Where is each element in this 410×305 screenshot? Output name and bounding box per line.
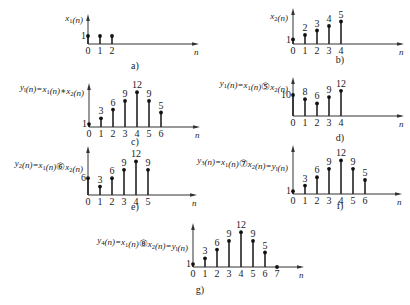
- stem-plot-e: n0613263941259y2(n)=x1(n)⑥x2(n)e): [14, 146, 197, 213]
- y-axis-arrow-icon: [87, 83, 91, 90]
- stem-dot: [111, 108, 115, 112]
- stem-dot: [251, 239, 255, 243]
- stem-dot: [87, 122, 91, 126]
- value-label: 9: [227, 228, 232, 239]
- tick-label: 7: [275, 268, 280, 279]
- stem-plot-g: n0113263941259657y4(n)=x1(n)⑧x2(n)=yl(n)…: [96, 219, 304, 296]
- value-label: 5: [159, 100, 164, 111]
- value-label: 1: [286, 185, 291, 196]
- stem-dot: [135, 90, 139, 94]
- y-axis-arrow-icon: [291, 77, 295, 84]
- tick-label: 1: [303, 195, 308, 206]
- y-axis-label: x2(n): [269, 11, 288, 23]
- tick-label: 5: [146, 196, 151, 207]
- tick-label: 1: [303, 45, 308, 56]
- y-axis-arrow-icon: [86, 14, 90, 21]
- x-axis-label: n: [192, 198, 197, 208]
- x-axis-label: n: [194, 47, 199, 57]
- value-label: 6: [215, 237, 220, 248]
- tick-label: 1: [98, 45, 103, 56]
- stem-dot: [99, 116, 103, 120]
- tick-label: 6: [363, 195, 368, 206]
- x-axis-arrow-icon: [297, 265, 304, 269]
- tick-label: 5: [147, 128, 152, 139]
- stem-dot: [134, 160, 138, 164]
- tick-label: 2: [110, 45, 115, 56]
- stem-dot: [339, 89, 343, 93]
- tick-label: 5: [351, 195, 356, 206]
- stem-dot: [327, 167, 331, 171]
- x-axis-arrow-icon: [193, 125, 200, 129]
- tick-label: 0: [86, 45, 91, 56]
- tick-label: 0: [87, 128, 92, 139]
- value-label: 5: [263, 240, 268, 251]
- tick-label: 3: [327, 45, 332, 56]
- value-label: 9: [146, 157, 151, 168]
- stem-dot: [327, 24, 331, 28]
- x-axis-arrow-icon: [395, 192, 402, 196]
- tick-label: 1: [303, 117, 308, 128]
- tick-label: 3: [327, 195, 332, 206]
- stem-dot: [147, 99, 151, 103]
- y-axis-arrow-icon: [291, 8, 295, 15]
- value-label: 2: [303, 22, 308, 33]
- stem-dot: [291, 93, 295, 97]
- stem-dot: [339, 159, 343, 163]
- value-label: 6: [111, 97, 116, 108]
- value-label: 3: [98, 174, 103, 185]
- stem-dot: [159, 111, 163, 115]
- value-label: 9: [327, 156, 332, 167]
- stem-dot: [327, 95, 331, 99]
- stem-dot: [110, 176, 114, 180]
- value-label: 9: [122, 157, 127, 168]
- tick-label: 5: [251, 268, 256, 279]
- stem-dot: [203, 256, 207, 260]
- panel-caption: c): [131, 136, 139, 148]
- x-axis-arrow-icon: [192, 42, 199, 46]
- y-axis-label: x1(n): [64, 13, 83, 25]
- panel-caption: e): [131, 201, 139, 213]
- x-axis-label: n: [195, 130, 200, 140]
- value-label: 1: [186, 258, 191, 269]
- tick-label: 2: [315, 45, 320, 56]
- value-label: 12: [336, 147, 346, 158]
- stem-dot: [191, 262, 195, 266]
- stem-plot-d: n010182639412y1(n)=x1(n)⑤x2(n)d): [219, 77, 404, 144]
- y-axis-arrow-icon: [86, 146, 90, 153]
- value-label: 12: [131, 148, 141, 159]
- x-axis-arrow-icon: [190, 193, 197, 197]
- value-label: 1: [82, 118, 87, 129]
- stem-dot: [315, 102, 319, 106]
- tick-label: 2: [111, 128, 116, 139]
- value-label: 12: [236, 219, 246, 230]
- value-label: 9: [147, 88, 152, 99]
- value-label: 1: [286, 34, 291, 45]
- stem-dot: [303, 33, 307, 37]
- stem-dot: [122, 168, 126, 172]
- tick-label: 2: [315, 195, 320, 206]
- y-axis-label: yl(n)=x1(n)∗x2(n): [19, 82, 84, 98]
- stem-dot: [146, 168, 150, 172]
- stem-dot: [303, 184, 307, 188]
- value-label: 9: [327, 84, 332, 95]
- value-label: 3: [203, 245, 208, 256]
- panel-caption: a): [131, 60, 139, 72]
- stem-plot-b: n0112233445x2(n)b): [269, 8, 404, 66]
- tick-label: 4: [239, 268, 244, 279]
- value-label: 1: [81, 30, 86, 41]
- stem-dot: [227, 239, 231, 243]
- y-axis-label: y4(n)=x1(n)⑧x2(n)=yl(n): [96, 235, 188, 253]
- value-label: 4: [327, 13, 332, 24]
- tick-label: 0: [86, 196, 91, 207]
- stem-dot: [239, 230, 243, 234]
- value-label: 8: [303, 86, 308, 97]
- tick-label: 3: [123, 128, 128, 139]
- x-axis-arrow-icon: [397, 42, 404, 46]
- tick-label: 3: [122, 196, 127, 207]
- value-label: 5: [363, 167, 368, 178]
- tick-label: 1: [99, 128, 104, 139]
- y-axis-label: y1(n)=x1(n)⑤x2(n): [219, 78, 288, 94]
- value-label: 3: [315, 18, 320, 29]
- stem-dot: [363, 178, 367, 182]
- tick-label: 0: [291, 45, 296, 56]
